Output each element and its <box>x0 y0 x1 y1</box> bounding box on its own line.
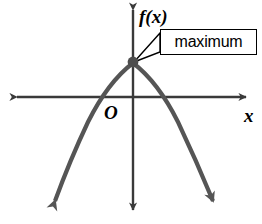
vertex-point <box>128 57 139 68</box>
maximum-callout-box: maximum <box>160 29 257 55</box>
y-axis-label: f(x) <box>139 7 167 26</box>
callout-leader-line <box>134 33 160 62</box>
x-axis-label: x <box>244 106 254 125</box>
function-graph-figure: f(x) x O maximum <box>0 0 262 224</box>
origin-label: O <box>104 103 118 122</box>
maximum-callout-label: maximum <box>161 30 256 54</box>
